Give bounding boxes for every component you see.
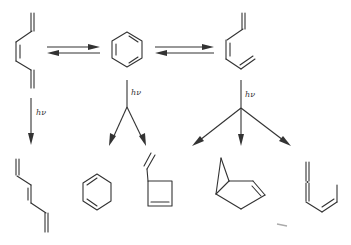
molecule-benzene: [112, 32, 142, 67]
product-allenyl-butadiene: [306, 162, 337, 212]
product-trans-hexatriene: [16, 159, 48, 232]
reaction-scheme-svg: [0, 0, 351, 245]
product-cyclohexadiene: [83, 174, 111, 210]
reaction-scheme: hν hν hν: [0, 0, 351, 245]
molecule-cis-hexatriene-left: [16, 13, 34, 88]
hv-label-right: hν: [245, 90, 255, 99]
photolysis-arrow-left: [28, 98, 34, 145]
molecule-cis-hexatriene-right: [226, 13, 255, 69]
equilibrium-arrow-left: [47, 44, 100, 56]
photolysis-fork-right: [192, 80, 291, 146]
hv-label-left: hν: [36, 108, 46, 117]
scan-artifact: [277, 224, 287, 226]
equilibrium-arrow-right: [155, 44, 214, 56]
product-vinylcyclobutene: [144, 153, 172, 206]
product-bicyclohexene: [216, 158, 265, 209]
hv-label-middle: hν: [131, 88, 141, 97]
